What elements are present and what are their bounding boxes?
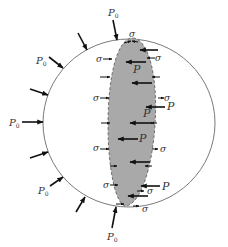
- label-p0-left: P0: [8, 117, 20, 129]
- label-p: P: [142, 107, 151, 120]
- label-p: P: [132, 63, 141, 76]
- label-sigma: σ: [96, 54, 103, 64]
- label-p0-top: P0: [107, 7, 119, 19]
- diagram-figure: P0 P0 P0 P0 P0: [0, 0, 228, 247]
- label-p: P: [138, 132, 147, 145]
- label-sigma: σ: [103, 180, 110, 190]
- label-p0-lower-left: P0: [37, 185, 49, 197]
- inner-shaded-region: [108, 38, 156, 206]
- external-pressure-labels: P0 P0 P0 P0 P0: [8, 7, 119, 243]
- label-sigma: σ: [142, 204, 149, 214]
- label-p: P: [166, 100, 175, 113]
- label-sigma: σ: [147, 186, 154, 196]
- label-sigma: σ: [93, 143, 100, 153]
- label-p0-bottom: P0: [106, 231, 118, 243]
- label-sigma: σ: [93, 93, 100, 103]
- label-sigma: σ: [129, 29, 136, 39]
- label-p0-upper-left: P0: [35, 55, 47, 67]
- label-sigma: σ: [155, 53, 162, 63]
- label-p: P: [161, 180, 170, 193]
- label-sigma: σ: [160, 144, 167, 154]
- external-pressure-arrows: [22, 20, 117, 228]
